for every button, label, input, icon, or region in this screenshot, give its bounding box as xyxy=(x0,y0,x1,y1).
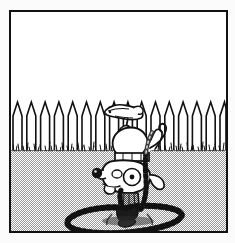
comic-panel-frame xyxy=(9,10,228,233)
dog-nose xyxy=(92,168,102,178)
comic-scene xyxy=(11,12,226,231)
comic-panel-root: Black and white comic panel: a cartoon d… xyxy=(0,0,235,243)
dog-shadow xyxy=(102,216,154,226)
